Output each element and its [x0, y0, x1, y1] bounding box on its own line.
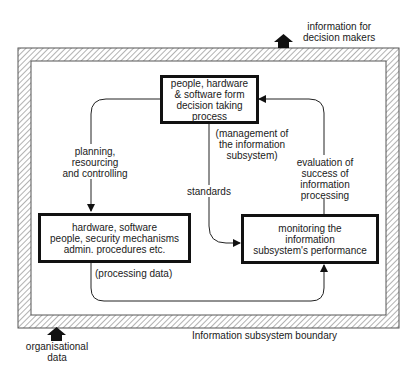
node-decision-process: people, hardware & software form decisio…	[160, 75, 259, 124]
node-decision-label: people, hardware & software form decisio…	[171, 78, 248, 122]
node-processing-resources: hardware, software people, security mech…	[38, 213, 191, 263]
input-label: organisational data	[22, 341, 92, 363]
input-arrow-icon	[47, 327, 66, 341]
output-label: information for decision makers	[303, 21, 375, 43]
output-arrow-icon	[274, 34, 293, 48]
edge-standards-label: standards	[187, 186, 231, 197]
management-annotation: (management of the information subsystem…	[213, 128, 291, 161]
node-monitoring: monitoring the information subsystem's p…	[241, 214, 379, 264]
edge-planning-label: planning, resourcing and controlling	[55, 146, 135, 179]
boundary-label: Information subsystem boundary	[192, 330, 337, 341]
node-monitoring-label: monitoring the information subsystem's p…	[253, 223, 367, 256]
edge-evaluation-label: evaluation of success of information pro…	[289, 157, 361, 201]
edge-processing-data-label: (processing data)	[95, 268, 172, 279]
node-processing-label: hardware, software people, security mech…	[50, 222, 179, 255]
